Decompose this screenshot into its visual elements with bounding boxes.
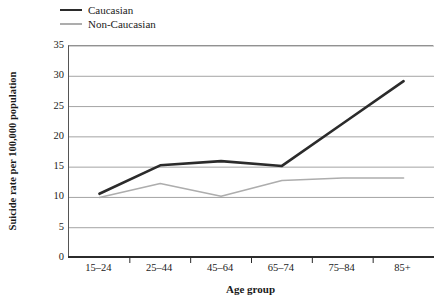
legend-label-non-caucasian: Non-Caucasian xyxy=(88,18,156,31)
x-tick-label: 45–64 xyxy=(190,262,251,273)
series-line-non-caucasian xyxy=(99,178,403,197)
x-tick-label: 25–44 xyxy=(129,262,190,273)
data-series-group xyxy=(99,81,403,197)
y-axis-tick-labels: 05101520253035 xyxy=(38,45,64,257)
x-tick-label: 65–74 xyxy=(251,262,312,273)
legend-item-non-caucasian[interactable]: Non-Caucasian xyxy=(60,17,260,31)
y-tick-label: 25 xyxy=(42,101,64,111)
legend-item-caucasian[interactable]: Caucasian xyxy=(60,3,260,17)
x-tick-label: 15–24 xyxy=(68,262,129,273)
y-tick-label: 10 xyxy=(42,191,64,201)
y-axis-title: Suicide rate per 100,000 population xyxy=(7,72,19,231)
x-axis-line xyxy=(68,256,434,258)
y-axis-title-wrap: Suicide rate per 100,000 population xyxy=(0,45,26,257)
plot-svg xyxy=(69,46,434,258)
y-tick-label: 35 xyxy=(42,40,64,50)
x-tick-label: 75–84 xyxy=(311,262,372,273)
y-tick-label: 20 xyxy=(42,131,64,141)
y-tick-label: 15 xyxy=(42,161,64,171)
chart-legend: Caucasian Non-Caucasian xyxy=(60,3,260,31)
legend-label-caucasian: Caucasian xyxy=(88,4,133,17)
x-axis-title: Age group xyxy=(68,283,433,295)
plot-area xyxy=(68,45,433,257)
chart-figure: Caucasian Non-Caucasian Suicide rate per… xyxy=(0,0,441,305)
x-tick-label: 85+ xyxy=(372,262,433,273)
series-line-caucasian xyxy=(99,81,403,194)
y-tick-label: 5 xyxy=(42,222,64,232)
y-tick-label: 0 xyxy=(42,252,64,262)
gridlines xyxy=(69,46,434,228)
y-tick-label: 30 xyxy=(42,70,64,80)
